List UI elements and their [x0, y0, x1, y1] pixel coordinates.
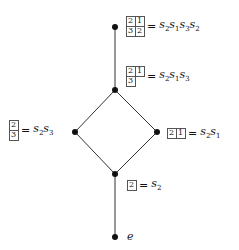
reduced-word: s2s1s3 — [159, 69, 189, 83]
label-s2s3: 2 3 = s2s3 — [9, 120, 53, 140]
node-s2s1 — [154, 129, 160, 135]
young-tableau: 2 — [127, 180, 136, 190]
young-tableau: 2 1 — [167, 128, 185, 138]
tableau-cell: 3 — [9, 130, 19, 141]
node-s2s3 — [72, 129, 78, 135]
young-tableau: 2 1 3 2 — [126, 16, 144, 36]
identity-element: e — [127, 231, 134, 242]
equals-sign: = — [188, 128, 197, 139]
tableau-cell: 1 — [176, 128, 186, 139]
label-s2: 2 = s2 — [127, 178, 161, 192]
reduced-word: s2 — [151, 178, 161, 192]
label-identity: e — [127, 231, 134, 242]
node-s2s1s3s2 — [112, 24, 118, 30]
reduced-word: s2s1s3s2 — [159, 19, 200, 33]
label-s2s1: 2 1 = s2s1 — [167, 126, 220, 140]
reduced-word: s2s3 — [33, 123, 53, 137]
equals-sign: = — [147, 71, 156, 82]
label-s2s1s3: 2 1 3 = s2s1s3 — [126, 66, 190, 86]
reduced-word: s2s1 — [200, 126, 220, 140]
equals-sign: = — [139, 180, 148, 191]
node-s2s1s3 — [112, 87, 118, 93]
tableau-cell: 2 — [135, 26, 145, 37]
young-tableau: 2 3 — [9, 120, 18, 140]
tableau-cell: 2 — [127, 180, 137, 191]
equals-sign: = — [147, 21, 156, 32]
node-identity — [112, 234, 118, 240]
label-s2s1s3s2: 2 1 3 2 = s2s1s3s2 — [126, 16, 200, 36]
equals-sign: = — [21, 125, 30, 136]
node-s2 — [112, 171, 118, 177]
tableau-empty — [135, 76, 143, 85]
young-tableau: 2 1 3 — [126, 66, 144, 86]
